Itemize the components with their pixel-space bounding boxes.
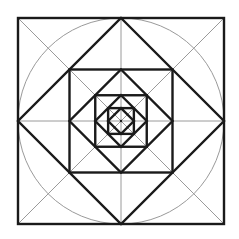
nested-squares-diagram (0, 0, 239, 239)
center-point (120, 120, 122, 122)
